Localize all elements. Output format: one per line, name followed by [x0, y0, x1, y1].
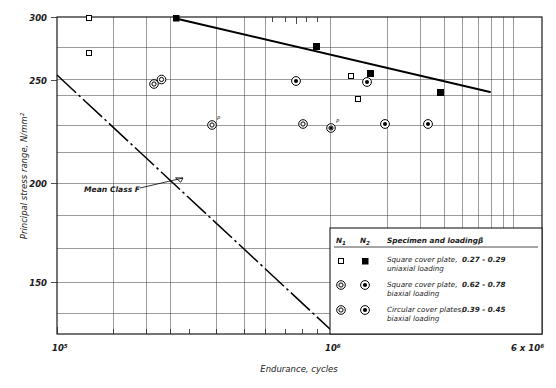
data-point-label: P — [336, 118, 340, 124]
mean-regression-line — [178, 19, 490, 92]
data-point — [314, 44, 320, 50]
y-tick-label: 150 — [29, 278, 47, 288]
data-point — [292, 77, 301, 86]
legend-marker-filled-square — [363, 259, 369, 265]
legend-beta-value: 0.39 - 0.45 — [462, 305, 505, 314]
data-point — [327, 124, 336, 133]
data-point — [381, 120, 390, 129]
data-point — [299, 120, 308, 129]
data-point-label: P — [217, 115, 221, 121]
x-axis-label: Endurance, cycles — [260, 364, 338, 374]
x-tick-label-6e6: 6 x 106 — [511, 343, 544, 353]
mean-class-f-line — [57, 75, 331, 330]
series-double-ring — [150, 75, 336, 132]
legend-header-beta: β — [477, 236, 483, 245]
x-tick-label-1e6: 106 — [325, 343, 341, 353]
legend-marker-ring-dot — [361, 281, 370, 290]
legend-label-line2: biaxial loading — [387, 289, 440, 298]
series-ring-dot — [292, 77, 433, 129]
data-point — [157, 75, 166, 84]
legend: N1 N2 Specimen and loading β Square cove… — [330, 228, 542, 334]
data-point — [87, 16, 92, 21]
data-point — [208, 121, 217, 130]
legend-label-line2: uniaxial loading — [387, 264, 444, 273]
chart-figure: 300 250 200 150 — [0, 0, 556, 388]
x-axis-tick-labels: 105 106 6 x 106 — [52, 343, 544, 353]
y-axis-tick-labels: 300 250 200 150 — [29, 13, 47, 288]
legend-label-line1: Circular cover plates, — [387, 305, 464, 314]
legend-label-line1: Square cover plate, — [387, 255, 458, 264]
legend-marker-open-square — [339, 259, 344, 264]
data-point — [424, 120, 433, 129]
legend-beta-value: 0.62 - 0.78 — [462, 280, 505, 289]
mean-class-f-label: Mean Class F — [84, 185, 141, 194]
legend-label-line2: biaxial loading — [387, 314, 440, 323]
data-point — [438, 90, 444, 96]
data-point — [174, 16, 180, 22]
y-tick-label: 200 — [29, 179, 47, 189]
x-tick-label-1e5: 105 — [52, 343, 68, 353]
legend-beta-value: 0.27 - 0.29 — [462, 255, 505, 264]
data-point — [363, 78, 372, 87]
legend-label-line1: Square cover plate, — [387, 280, 458, 289]
chart-svg: 300 250 200 150 — [0, 0, 556, 388]
legend-marker-double-ring — [337, 281, 346, 290]
legend-header-specimen: Specimen and loading — [387, 236, 478, 245]
data-point — [349, 74, 354, 79]
data-point — [356, 97, 361, 102]
series-open-square — [87, 16, 361, 102]
data-point — [368, 71, 374, 77]
y-axis-ticks — [51, 18, 57, 283]
data-point — [87, 51, 92, 56]
legend-marker-double-ring — [337, 306, 346, 315]
legend-marker-ring-dot — [361, 306, 370, 315]
y-axis-label: Principal stress range, N/mm² — [19, 112, 29, 239]
y-tick-label: 250 — [29, 76, 47, 86]
y-tick-label: 300 — [29, 13, 47, 23]
